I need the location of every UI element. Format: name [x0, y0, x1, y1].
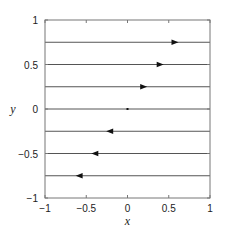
- x-tick-label: 1: [207, 203, 213, 214]
- arrow-right-icon: [172, 39, 179, 45]
- arrow-left-icon: [76, 173, 83, 179]
- phase-portrait-chart: −1−0.500.51 −1−0.500.51 x y: [0, 0, 228, 236]
- y-tick-label: −1: [27, 193, 39, 204]
- y-tick-label: 0: [32, 104, 38, 115]
- arrow-left-icon: [106, 128, 113, 134]
- x-tick-label: 0: [125, 203, 131, 214]
- y-tick-label: 0.5: [24, 60, 38, 71]
- y-tick-label: −0.5: [18, 149, 38, 160]
- arrow-right-icon: [157, 62, 164, 68]
- y-axis-label: y: [9, 102, 16, 116]
- x-tick-labels: −1−0.500.51: [39, 203, 213, 214]
- x-axis-label: x: [124, 214, 131, 228]
- arrow-right-icon: [140, 84, 147, 90]
- arrow-left-icon: [91, 151, 98, 157]
- y-tick-label: 1: [32, 15, 38, 26]
- x-tick-label: −0.5: [76, 203, 96, 214]
- y-tick-labels: −1−0.500.51: [18, 15, 38, 204]
- fixed-point-icon: [127, 108, 129, 110]
- flow-lines: [45, 39, 210, 178]
- x-tick-label: 0.5: [162, 203, 176, 214]
- x-tick-label: −1: [39, 203, 51, 214]
